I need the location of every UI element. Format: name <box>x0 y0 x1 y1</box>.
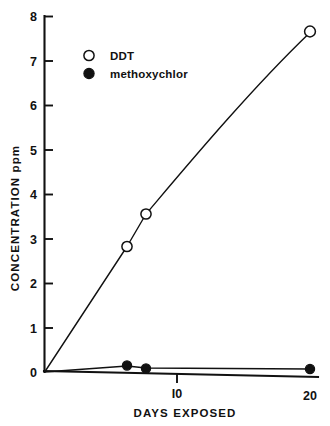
methoxychlor-point-1 <box>122 361 131 370</box>
ddt-point-1 <box>122 241 132 251</box>
y-tick-label-6: 6 <box>30 99 37 113</box>
y-tick-label-0: 0 <box>30 366 37 380</box>
methoxychlor-point-2 <box>141 364 150 373</box>
ddt-point-2 <box>141 209 151 219</box>
y-tick-label-5: 5 <box>30 144 37 158</box>
y-axis-title: CONCENTRATION ppm <box>9 145 21 291</box>
figure-container: 8 7 6 5 4 3 2 1 0 CONCENTRATION ppm I0 2… <box>0 0 330 426</box>
x-axis: I0 20 DAYS EXPOSED <box>44 371 318 419</box>
y-axis: 8 7 6 5 4 3 2 1 0 CONCENTRATION ppm <box>9 10 53 380</box>
x-axis-title: DAYS EXPOSED <box>134 407 237 419</box>
y-tick-label-2: 2 <box>30 277 37 291</box>
methoxychlor-point-3 <box>305 364 314 373</box>
x-tick-label-20: 20 <box>303 389 317 403</box>
legend-entry-methoxychlor: methoxychlor <box>84 68 188 80</box>
y-tick-label-8: 8 <box>30 10 37 24</box>
y-tick-label-3: 3 <box>30 233 37 247</box>
y-tick-label-7: 7 <box>30 55 37 69</box>
legend-entry-ddt: DDT <box>84 50 134 62</box>
legend: DDT methoxychlor <box>84 50 188 80</box>
x-tick-label-10: I0 <box>172 387 182 401</box>
legend-label-ddt: DDT <box>110 50 134 62</box>
legend-open-circle-icon <box>84 50 94 60</box>
legend-label-methoxychlor: methoxychlor <box>110 68 188 80</box>
legend-filled-circle-icon <box>84 68 94 78</box>
ddt-point-3 <box>305 26 316 37</box>
x-axis-line <box>44 371 318 377</box>
concentration-vs-days-chart: 8 7 6 5 4 3 2 1 0 CONCENTRATION ppm I0 2… <box>0 0 330 426</box>
ddt-line <box>45 33 310 372</box>
y-tick-label-4: 4 <box>30 188 37 202</box>
y-tick-label-1: 1 <box>30 322 37 336</box>
